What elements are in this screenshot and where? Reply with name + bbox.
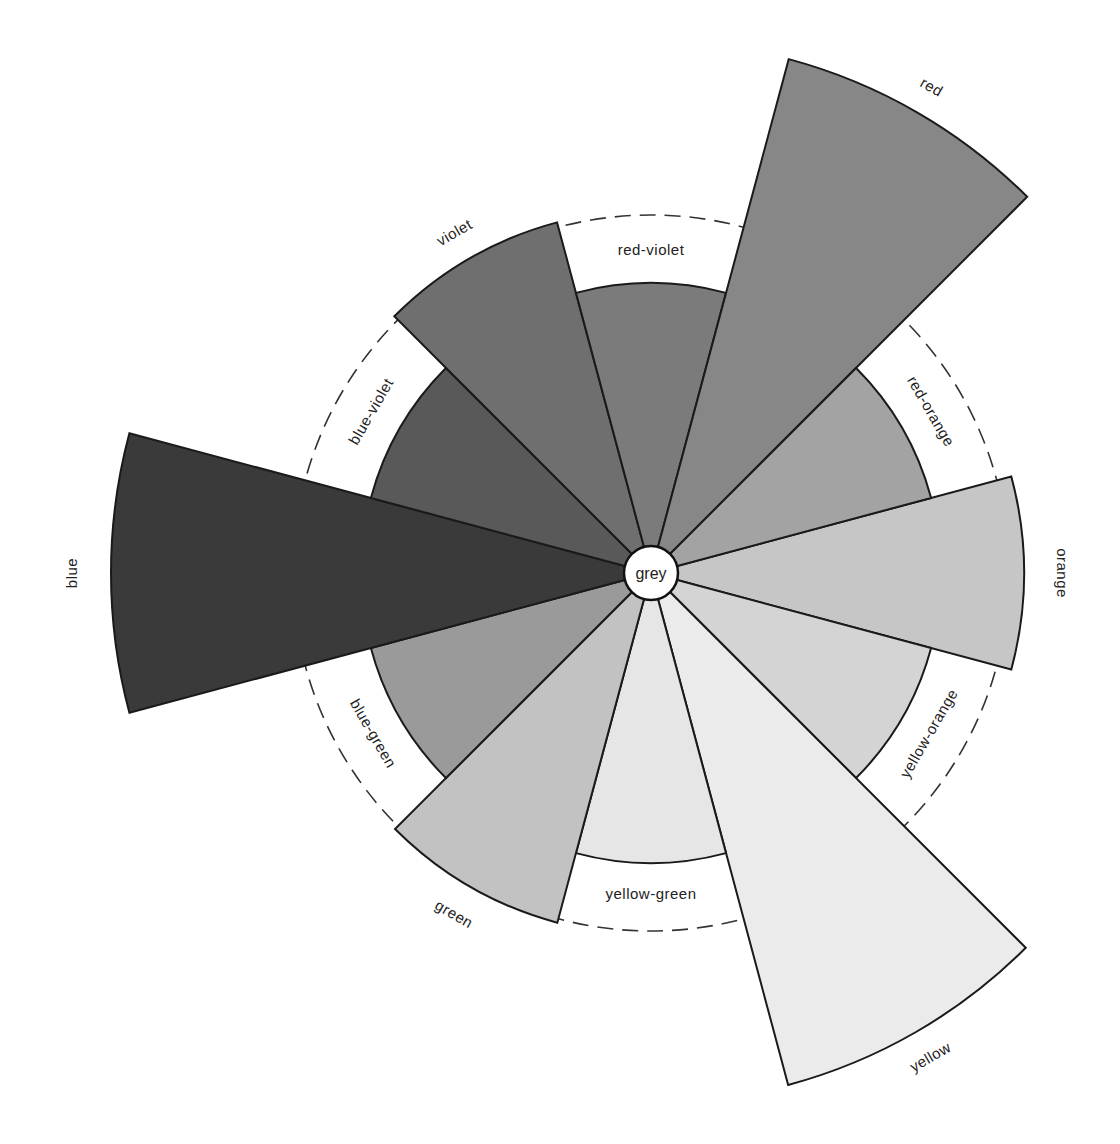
center-grey: grey (624, 546, 678, 600)
label-red-orange: red-orange (904, 373, 958, 449)
label-yellow-green: yellow-green (605, 885, 696, 902)
label-blue-green: blue-green (347, 696, 400, 771)
label-red: red (917, 74, 946, 100)
label-red-violet: red-violet (618, 241, 685, 258)
label-blue: blue (63, 558, 80, 588)
label-blue-violet: blue-violet (345, 375, 397, 448)
color-wheel-diagram: orangeyellow-orangeyellowyellow-greengre… (0, 0, 1120, 1144)
center-label: grey (635, 565, 666, 582)
label-yellow: yellow (907, 1038, 954, 1075)
sectors-group (111, 59, 1027, 1085)
label-orange: orange (1054, 548, 1071, 598)
label-violet: violet (434, 215, 476, 249)
label-green: green (432, 896, 476, 931)
